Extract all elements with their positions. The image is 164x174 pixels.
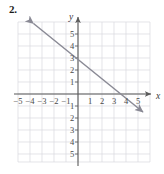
y-tick-label: 5 bbox=[70, 29, 74, 39]
y-axis-label: y bbox=[68, 12, 74, 22]
x-tick-label: 4 bbox=[124, 96, 129, 106]
x-tick-label: 3 bbox=[112, 96, 116, 106]
problem-number: 2. bbox=[9, 3, 17, 15]
x-tick-label: −5 bbox=[13, 96, 22, 106]
x-tick-label: 1 bbox=[88, 96, 92, 106]
y-tick-label: 5 bbox=[70, 149, 74, 159]
y-tick-label: 1 bbox=[70, 101, 74, 111]
x-tick-label: −3 bbox=[37, 96, 46, 106]
coordinate-plane-figure: 2. bbox=[0, 0, 164, 174]
y-tick-label: 3 bbox=[70, 53, 74, 63]
graph-canvas: −5 −4 −3 −2 −1 1 2 3 4 5 5 4 3 2 1 1 2 3… bbox=[0, 0, 164, 174]
x-axis-label: x bbox=[155, 91, 161, 101]
y-tick-label: 1 bbox=[70, 77, 74, 87]
x-tick-label: −2 bbox=[49, 96, 58, 106]
x-tick-label: 2 bbox=[100, 96, 104, 106]
y-tick-label: 2 bbox=[70, 113, 74, 123]
y-tick-label: 2 bbox=[70, 65, 74, 75]
grid-lines bbox=[18, 22, 150, 162]
y-tick-label: 3 bbox=[70, 125, 74, 135]
x-tick-label: −4 bbox=[25, 96, 35, 106]
x-tick-label: 5 bbox=[136, 96, 140, 106]
